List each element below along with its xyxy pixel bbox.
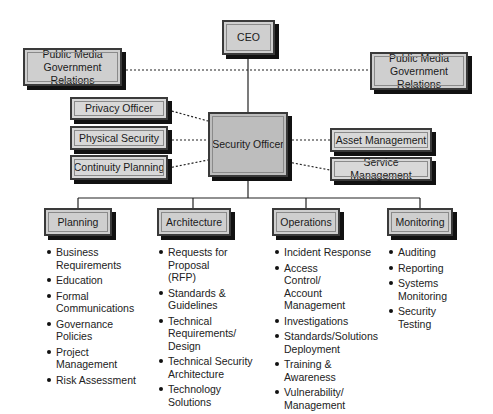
- public-media-left-line2: Government Relations: [25, 61, 120, 87]
- list-item: Standards/Solutions Deployment: [274, 330, 374, 355]
- public-media-right-line1: Public Media: [389, 52, 449, 65]
- continuity-planning-box: Continuity Planning: [70, 155, 168, 180]
- continuity-planning-label: Continuity Planning: [74, 161, 164, 174]
- list-item: Incident Response: [274, 246, 374, 259]
- public-media-right-box: Public Media Government Relations: [370, 52, 468, 90]
- security-officer-box: Security Officer: [208, 112, 288, 177]
- architecture-box: Architecture: [157, 208, 231, 236]
- monitoring-box: Monitoring: [387, 208, 453, 236]
- operations-list: Incident Response Access Control/ Accoun…: [274, 246, 374, 414]
- operations-label: Operations: [280, 216, 331, 229]
- list-item: Training & Awareness: [274, 358, 344, 383]
- list-item: Vulnerability/ Management: [274, 386, 352, 411]
- list-item: Systems Monitoring: [388, 277, 458, 302]
- ceo-label: CEO: [237, 31, 260, 44]
- asset-management-box: Asset Management: [330, 128, 432, 152]
- ceo-box: CEO: [222, 20, 275, 55]
- list-item: Technology Solutions: [158, 383, 233, 408]
- list-item: Governance Policies: [46, 318, 116, 343]
- list-item: Standards & Guidelines: [158, 287, 228, 312]
- physical-security-box: Physical Security: [70, 126, 168, 150]
- list-item: Requests for Proposal (RFP): [158, 246, 238, 284]
- monitoring-list: Auditing Reporting Systems Monitoring Se…: [388, 246, 468, 333]
- planning-list: Business Requirements Education Formal C…: [46, 246, 156, 389]
- public-media-right-line2: Government Relations: [372, 65, 466, 91]
- public-media-left-box: Public Media Government Relations: [23, 48, 122, 86]
- security-officer-label: Security Officer: [212, 138, 284, 151]
- planning-box: Planning: [44, 208, 112, 236]
- list-item: Security Testing: [388, 305, 448, 330]
- list-item: Business Requirements: [46, 246, 116, 271]
- planning-label: Planning: [58, 216, 99, 229]
- architecture-list: Requests for Proposal (RFP) Standards & …: [158, 246, 256, 411]
- list-item: Technical Requirements/ Design: [158, 315, 233, 353]
- service-management-box: Service Management: [330, 157, 432, 181]
- service-management-label: Service Management: [332, 156, 430, 182]
- list-item: Project Management: [46, 346, 116, 371]
- list-item: Access Control/ Account Management: [274, 262, 356, 312]
- list-item: Technical Security Architecture: [158, 355, 253, 380]
- list-item: Education: [46, 274, 156, 287]
- operations-box: Operations: [272, 208, 340, 236]
- privacy-officer-label: Privacy Officer: [85, 102, 153, 115]
- list-item: Formal Communications: [46, 290, 126, 315]
- physical-security-label: Physical Security: [79, 132, 159, 145]
- list-item: Risk Assessment: [46, 374, 156, 387]
- monitoring-label: Monitoring: [395, 216, 444, 229]
- architecture-label: Architecture: [166, 216, 222, 229]
- privacy-officer-box: Privacy Officer: [70, 97, 168, 120]
- public-media-left-line1: Public Media: [42, 48, 102, 61]
- list-item: Investigations: [274, 315, 374, 328]
- list-item: Reporting: [388, 262, 468, 275]
- asset-management-label: Asset Management: [336, 134, 426, 147]
- list-item: Auditing: [388, 246, 468, 259]
